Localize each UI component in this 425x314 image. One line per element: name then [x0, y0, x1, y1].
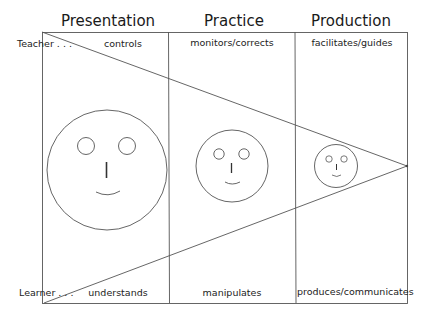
diagram-frame — [43, 33, 408, 304]
face-large-icon — [47, 110, 167, 230]
column-divider-1 — [169, 32, 170, 303]
triangle-bottom-edge — [44, 166, 407, 303]
column-header-production: Production — [281, 12, 421, 30]
learner-role-production: produces/communicates — [297, 286, 409, 298]
teacher-role-production: facilitates/guides — [300, 37, 404, 49]
row-label-teacher: Teacher . . . — [17, 38, 72, 50]
teacher-role-presentation: controls — [78, 38, 168, 50]
triangle-apex-dot — [406, 165, 408, 167]
row-label-learner: Learner . . . — [19, 287, 73, 299]
face-medium-icon — [196, 130, 268, 202]
face-small-icon — [315, 145, 358, 188]
learner-role-practice: manipulates — [176, 287, 288, 299]
triangle-top-edge — [42, 32, 407, 166]
column-header-presentation: Presentation — [38, 12, 178, 30]
learner-role-presentation: understands — [76, 287, 160, 299]
teacher-role-practice: monitors/corrects — [176, 37, 288, 49]
column-divider-2 — [295, 32, 296, 303]
